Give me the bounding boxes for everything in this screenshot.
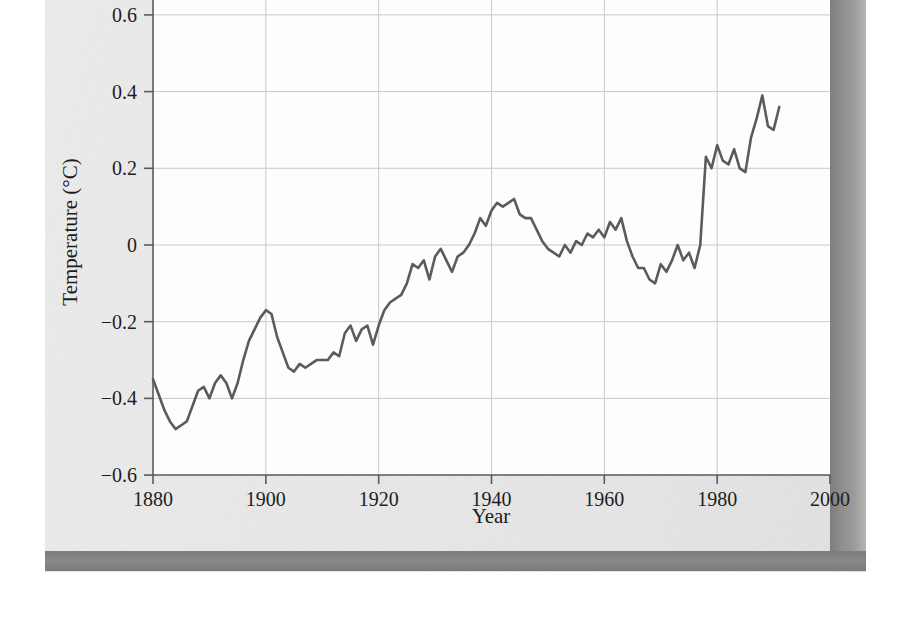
y-axis-ticks bbox=[144, 15, 153, 475]
y-axis-tick-labels: −0.6−0.4−0.200.20.40.6 bbox=[101, 4, 137, 486]
x-tick-label: 1920 bbox=[359, 488, 399, 510]
figure-screenshot: −0.6−0.4−0.200.20.40.6 18801900192019401… bbox=[0, 0, 904, 637]
x-axis-ticks bbox=[153, 475, 830, 484]
x-tick-label: 2000 bbox=[810, 488, 850, 510]
y-tick-label: 0.6 bbox=[112, 4, 137, 26]
y-tick-label: −0.2 bbox=[101, 311, 137, 333]
x-tick-label: 1980 bbox=[697, 488, 737, 510]
temperature-line-chart: −0.6−0.4−0.200.20.40.6 18801900192019401… bbox=[0, 0, 904, 637]
x-tick-label: 1880 bbox=[133, 488, 173, 510]
y-tick-label: 0.4 bbox=[112, 81, 137, 103]
x-tick-label: 1960 bbox=[584, 488, 624, 510]
y-tick-label: 0 bbox=[127, 234, 137, 256]
x-tick-label: 1900 bbox=[246, 488, 286, 510]
y-axis-title: Temperature (°C) bbox=[58, 158, 82, 305]
y-tick-label: −0.6 bbox=[101, 464, 137, 486]
y-tick-label: 0.2 bbox=[112, 157, 137, 179]
x-axis-title: Year bbox=[472, 504, 511, 528]
y-tick-label: −0.4 bbox=[101, 387, 137, 409]
